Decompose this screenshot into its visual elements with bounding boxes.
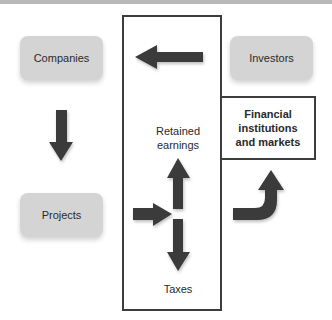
arrow-left-icon	[135, 45, 203, 69]
arrow-down-taxes-icon	[167, 219, 190, 271]
arrows-layer	[0, 0, 332, 320]
arrow-right-icon	[133, 203, 172, 226]
arrow-curved-up-icon	[233, 170, 284, 220]
arrow-up-icon	[167, 158, 190, 209]
arrow-down-icon	[49, 110, 73, 161]
